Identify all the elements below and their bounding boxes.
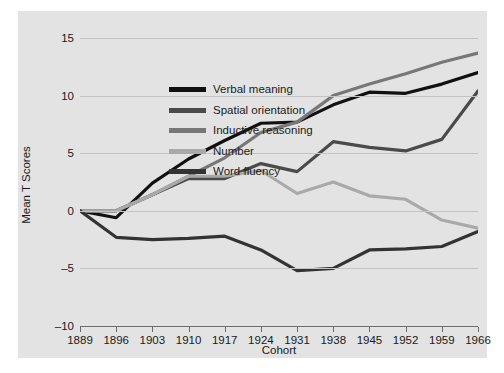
x-axis-tick bbox=[152, 327, 153, 332]
x-axis-tick bbox=[261, 327, 262, 332]
x-axis-line bbox=[80, 326, 478, 327]
x-axis-tick bbox=[478, 327, 479, 332]
x-axis-tick bbox=[333, 327, 334, 332]
gridline bbox=[80, 268, 478, 269]
x-axis-tick bbox=[406, 327, 407, 332]
legend-item-label: Number bbox=[213, 145, 254, 158]
x-axis-tick bbox=[225, 327, 226, 332]
y-axis-tick-label: –5 bbox=[34, 262, 74, 274]
legend-item: Number bbox=[169, 145, 313, 158]
x-axis-tick-label: 1938 bbox=[320, 334, 346, 346]
x-axis-tick-label: 1952 bbox=[393, 334, 419, 346]
gridline bbox=[80, 38, 478, 39]
data-series-lines bbox=[80, 38, 478, 326]
x-axis-tick bbox=[189, 327, 190, 332]
legend-item-label: Inductive reasoning bbox=[213, 124, 313, 137]
y-axis-label: Mean T Scores bbox=[20, 146, 32, 224]
gridline bbox=[80, 211, 478, 212]
y-axis-tick-label: 5 bbox=[34, 147, 74, 159]
x-axis-tick bbox=[116, 327, 117, 332]
x-axis-tick-label: 1917 bbox=[212, 334, 238, 346]
x-axis-tick-label: 1966 bbox=[465, 334, 491, 346]
legend-swatch-icon bbox=[169, 108, 206, 113]
series-line bbox=[80, 211, 478, 271]
legend-item-label: Word fluency bbox=[213, 165, 280, 178]
legend-swatch-icon bbox=[169, 87, 206, 92]
legend-swatch-icon bbox=[169, 128, 206, 133]
x-axis-tick bbox=[80, 327, 81, 332]
legend-item: Word fluency bbox=[169, 165, 313, 178]
x-axis-tick bbox=[442, 327, 443, 332]
y-axis-tick-label: 15 bbox=[34, 32, 74, 44]
y-axis-tick-label: –10 bbox=[34, 320, 74, 332]
series-line bbox=[80, 170, 478, 228]
legend-swatch-icon bbox=[169, 149, 206, 154]
x-axis-tick-label: 1889 bbox=[67, 334, 93, 346]
x-axis-tick-label: 1931 bbox=[284, 334, 310, 346]
plot-area: 151050–5–10 1889189619031910191719241931… bbox=[80, 38, 478, 326]
y-axis-tick-label: 0 bbox=[34, 205, 74, 217]
x-axis-tick bbox=[369, 327, 370, 332]
x-axis-tick-label: 1896 bbox=[103, 334, 129, 346]
y-axis-tick-label: 10 bbox=[34, 90, 74, 102]
legend-item: Spatial orientation bbox=[169, 104, 313, 117]
x-axis-tick-label: 1945 bbox=[357, 334, 383, 346]
legend-item: Verbal meaning bbox=[169, 83, 313, 96]
chart-legend: Verbal meaningSpatial orientationInducti… bbox=[169, 83, 313, 178]
legend-item-label: Verbal meaning bbox=[213, 83, 293, 96]
legend-item: Inductive reasoning bbox=[169, 124, 313, 137]
x-axis-tick-label: 1903 bbox=[140, 334, 166, 346]
x-axis-tick-label: 1924 bbox=[248, 334, 274, 346]
legend-item-label: Spatial orientation bbox=[213, 104, 305, 117]
chart-figure: Mean T Scores Cohort 151050–5–10 1889189… bbox=[18, 11, 487, 358]
x-axis-tick-label: 1910 bbox=[176, 334, 202, 346]
legend-swatch-icon bbox=[169, 169, 206, 174]
x-axis-tick bbox=[297, 327, 298, 332]
x-axis-tick-label: 1959 bbox=[429, 334, 455, 346]
